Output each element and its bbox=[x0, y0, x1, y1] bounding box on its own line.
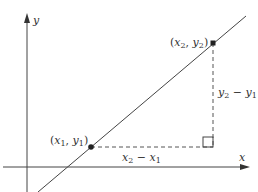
run-label: x2 − x1 bbox=[122, 151, 161, 165]
y-axis bbox=[24, 13, 30, 192]
rise-label: y2 − y1 bbox=[217, 86, 257, 100]
y-axis-arrow-icon bbox=[24, 13, 30, 23]
point-x1y1 bbox=[88, 144, 94, 150]
right-angle-marker bbox=[203, 137, 213, 147]
slope-diagram: y x (x1, y1) (x2, y2) x2 − x1 y2 − y1 bbox=[0, 0, 258, 192]
point-x2y2 bbox=[211, 41, 216, 46]
point-x1y1-label: (x1, y1) bbox=[50, 134, 88, 148]
x-axis-label: x bbox=[239, 151, 246, 164]
x-axis bbox=[3, 164, 250, 170]
x-axis-arrow-icon bbox=[240, 164, 250, 170]
point-x2y2-label: (x2, y2) bbox=[170, 36, 208, 50]
y-axis-label: y bbox=[32, 14, 40, 27]
